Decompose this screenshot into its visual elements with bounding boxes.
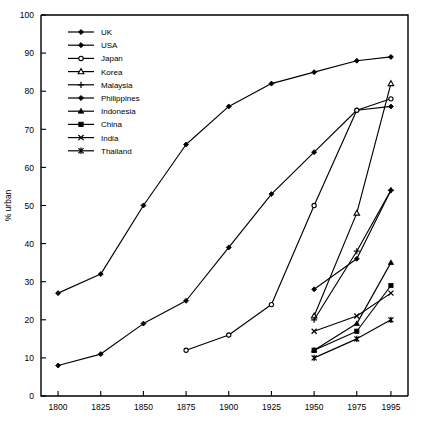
chart-legend: UKUSAJapanKoreaMalaysiaPhilippinesIndone… [68, 28, 140, 156]
series-malaysia [311, 187, 394, 323]
series-polyline [186, 99, 391, 350]
legend-item-thailand[interactable]: Thailand [68, 147, 132, 156]
x-tick-label: 1900 [219, 402, 238, 412]
x-axis-tick-labels: 180018251850187519001925195019751995 [49, 402, 401, 412]
data-point [269, 81, 274, 86]
legend-marker-filled-diamond [78, 43, 83, 48]
data-point [388, 188, 393, 193]
legend-item-usa[interactable]: USA [68, 41, 118, 50]
legend-label: China [101, 120, 122, 129]
x-tick-label: 1995 [381, 402, 400, 412]
data-point [389, 97, 393, 101]
y-tick-label: 20 [25, 315, 35, 325]
legend-marker-plus [78, 82, 84, 88]
data-point [312, 329, 317, 334]
legend-marker-open-circle [79, 56, 83, 60]
plot-frame [41, 15, 408, 396]
y-tick-label: 90 [25, 48, 35, 58]
data-point [388, 104, 393, 109]
x-tick-label: 1825 [91, 402, 110, 412]
legend-item-india[interactable]: India [68, 134, 119, 143]
series-polyline [314, 190, 391, 289]
y-tick-label: 40 [25, 239, 35, 249]
legend-item-korea[interactable]: Korea [68, 68, 123, 77]
legend-label: Philippines [101, 94, 140, 103]
data-point [312, 70, 317, 75]
legend-label: Indonesia [101, 107, 136, 116]
series-uk [56, 54, 394, 295]
data-point [388, 260, 393, 265]
data-point [388, 317, 393, 323]
data-point [184, 348, 188, 352]
data-point [312, 355, 317, 361]
legend-label: Japan [101, 54, 123, 63]
x-axis-ticks [58, 391, 391, 396]
legend-label: Malaysia [101, 81, 133, 90]
data-point [355, 329, 359, 333]
data-point [354, 336, 359, 342]
legend-label: India [101, 134, 119, 143]
legend-label: Korea [101, 68, 123, 77]
data-point [312, 348, 316, 352]
series-polyline [314, 320, 391, 358]
series-thailand [312, 317, 394, 361]
axis-lines [41, 15, 408, 396]
y-axis-ticks [41, 15, 46, 396]
y-axis-tick-labels: 0102030405060708090100 [20, 10, 34, 401]
data-point [354, 58, 359, 63]
y-tick-label: 70 [25, 125, 35, 135]
legend-item-indonesia[interactable]: Indonesia [68, 107, 136, 116]
legend-label: Thailand [101, 147, 132, 156]
legend-marker-open-triangle [78, 69, 84, 74]
data-point [355, 108, 359, 112]
y-tick-label: 60 [25, 163, 35, 173]
data-point [312, 203, 316, 207]
data-point [269, 302, 273, 306]
chart-canvas: 180018251850187519001925195019751995 010… [0, 0, 422, 435]
data-point [354, 248, 360, 254]
legend-item-philippines[interactable]: Philippines [68, 94, 140, 103]
legend-marker-filled-diamond [78, 29, 83, 34]
data-point [56, 291, 61, 296]
x-tick-label: 1975 [347, 402, 366, 412]
series-usa [56, 104, 394, 368]
x-tick-label: 1850 [134, 402, 153, 412]
y-tick-label: 80 [25, 86, 35, 96]
data-point [354, 321, 359, 326]
legend-item-china[interactable]: China [68, 120, 122, 129]
series-indonesia [311, 260, 393, 352]
y-tick-label: 100 [20, 10, 34, 20]
data-point [388, 54, 393, 59]
series-india [312, 291, 394, 334]
x-tick-label: 1925 [262, 402, 281, 412]
data-point [354, 210, 360, 215]
legend-marker-filled-diamond [78, 95, 83, 100]
data-point [389, 283, 393, 287]
data-point [354, 313, 359, 318]
x-tick-label: 1875 [177, 402, 196, 412]
y-tick-label: 10 [25, 353, 35, 363]
data-point [388, 291, 393, 296]
data-point [227, 333, 231, 337]
x-tick-label: 1950 [305, 402, 324, 412]
y-axis-title-text: % urban [3, 189, 13, 221]
data-point [388, 81, 394, 86]
y-tick-label: 50 [25, 201, 35, 211]
plot-border [41, 15, 408, 396]
urbanization-line-chart: 180018251850187519001925195019751995 010… [0, 0, 422, 435]
legend-marker-filled-square [79, 122, 83, 126]
legend-label: USA [101, 41, 118, 50]
series-polyline [58, 57, 391, 293]
y-tick-label: 30 [25, 277, 35, 287]
y-tick-label: 0 [29, 391, 34, 401]
legend-item-uk[interactable]: UK [68, 28, 113, 37]
series-philippines [312, 188, 394, 292]
legend-item-japan[interactable]: Japan [68, 54, 123, 63]
series-polyline [314, 263, 391, 351]
legend-item-malaysia[interactable]: Malaysia [68, 81, 133, 90]
x-tick-label: 1800 [49, 402, 68, 412]
legend-label: UK [101, 28, 113, 37]
y-axis-title: % urban [3, 189, 13, 221]
data-point [56, 363, 61, 368]
series-polyline [314, 293, 391, 331]
